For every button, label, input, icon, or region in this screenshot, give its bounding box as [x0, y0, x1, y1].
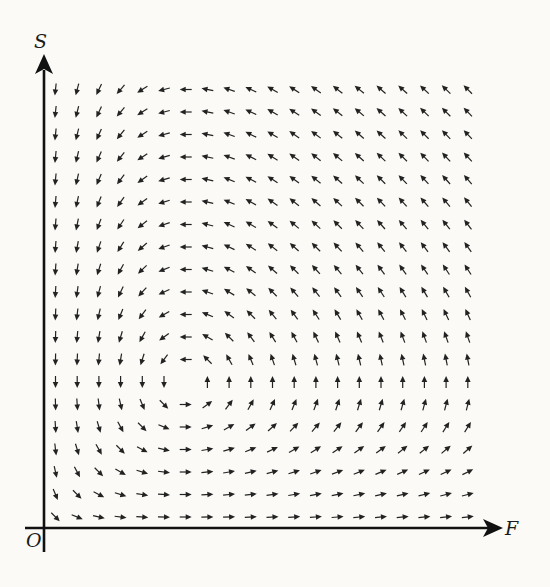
field-arrow-icon [357, 376, 363, 388]
field-arrow-icon [442, 197, 450, 206]
field-arrow-icon [74, 219, 80, 231]
field-arrow-icon [72, 514, 83, 519]
field-arrow-icon [74, 286, 80, 298]
field-arrow-icon [248, 354, 253, 365]
field-arrow-icon [354, 446, 364, 453]
field-arrow-icon [96, 421, 101, 433]
field-arrow-icon [201, 514, 213, 520]
field-arrow-icon [96, 219, 101, 230]
field-arrow-icon [267, 87, 277, 93]
field-arrow-icon [335, 309, 341, 319]
field-arrow-icon [137, 86, 147, 92]
x-axis [25, 519, 503, 537]
field-arrow-icon [288, 514, 300, 520]
field-arrow-icon [223, 154, 234, 159]
field-arrow-icon [377, 130, 386, 138]
field-arrow-icon [356, 265, 363, 274]
field-arrow-icon [464, 175, 472, 184]
field-arrow-icon [118, 264, 124, 274]
field-arrow-icon [53, 106, 59, 118]
field-arrow-icon [223, 492, 235, 498]
field-arrow-icon [223, 514, 235, 520]
field-arrow-icon [420, 85, 429, 93]
field-arrow-icon [136, 492, 148, 498]
field-arrow-icon [139, 332, 145, 342]
field-arrow-icon [313, 354, 318, 366]
field-arrow-icon [311, 108, 321, 115]
field-arrow-icon [202, 267, 214, 272]
field-arrow-icon [270, 376, 276, 388]
field-arrow-icon [375, 492, 387, 497]
field-arrow-icon [440, 514, 452, 520]
field-arrow-icon [311, 198, 320, 206]
field-arrow-icon [180, 244, 192, 250]
field-arrow-icon [333, 176, 342, 184]
field-arrow-icon [267, 154, 277, 160]
field-arrow-icon [289, 447, 299, 453]
field-arrow-icon [292, 399, 297, 410]
field-arrow-icon [378, 399, 383, 411]
field-arrow-icon [224, 289, 234, 295]
field-arrow-icon [180, 289, 192, 295]
field-arrow-icon [74, 129, 79, 141]
field-arrow-icon [267, 447, 278, 452]
field-arrow-icon [93, 514, 105, 519]
field-arrow-icon [245, 154, 256, 159]
field-arrow-icon [290, 423, 298, 432]
field-arrow-icon [376, 446, 386, 453]
field-arrow-icon [375, 514, 387, 520]
field-arrow-icon [117, 85, 125, 94]
field-arrow-icon [378, 422, 385, 432]
field-arrow-icon [202, 334, 212, 340]
field-arrow-icon [74, 399, 80, 411]
field-arrow-icon [420, 197, 428, 206]
field-arrow-icon [355, 175, 364, 183]
field-arrow-icon [356, 287, 363, 297]
field-arrow-icon [246, 199, 256, 205]
field-arrow-icon [248, 399, 254, 409]
field-arrow-icon [310, 514, 322, 520]
field-arrow-icon [138, 288, 146, 297]
field-arrow-icon [74, 196, 79, 208]
field-arrow-icon [137, 109, 147, 115]
field-arrow-icon [464, 130, 472, 139]
field-arrow-icon [312, 243, 320, 251]
field-arrow-icon [270, 354, 275, 365]
field-arrow-icon [117, 220, 124, 230]
field-arrow-icon [465, 422, 471, 432]
field-arrow-icon [202, 312, 213, 317]
field-arrow-icon [288, 469, 299, 474]
field-arrow-icon [53, 129, 59, 141]
field-arrow-icon [442, 220, 449, 229]
field-arrow-icon [440, 492, 452, 497]
field-arrow-icon [116, 445, 124, 453]
field-arrow-icon [202, 244, 214, 249]
field-arrow-icon [442, 85, 451, 93]
field-arrow-icon [96, 174, 101, 185]
field-arrow-icon [51, 513, 59, 521]
field-arrow-icon [335, 399, 340, 410]
field-arrow-icon [399, 220, 407, 229]
field-arrow-icon [115, 492, 127, 497]
field-arrow-icon [422, 309, 427, 320]
field-arrow-icon [291, 332, 297, 343]
field-arrow-icon [202, 87, 214, 93]
field-arrow-icon [378, 331, 383, 342]
field-arrow-icon [377, 242, 385, 251]
field-arrow-icon [311, 446, 321, 452]
field-arrow-icon [267, 514, 279, 520]
field-arrow-icon [53, 286, 59, 298]
field-arrow-icon [270, 399, 275, 410]
field-arrow-icon [248, 376, 254, 388]
field-arrow-icon [462, 469, 473, 474]
field-arrow-icon [464, 85, 472, 93]
field-arrow-icon [96, 129, 101, 140]
field-arrow-icon [224, 177, 235, 182]
field-arrow-icon [398, 85, 407, 93]
field-arrow-icon [74, 151, 79, 163]
field-arrow-icon [268, 288, 276, 296]
field-arrow-icon [180, 132, 192, 138]
field-arrow-icon [117, 242, 123, 252]
field-arrow-icon [421, 287, 427, 297]
field-arrow-icon [419, 492, 431, 497]
